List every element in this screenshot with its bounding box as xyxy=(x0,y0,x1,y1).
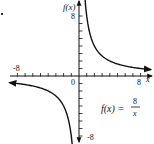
curve-positive-branch xyxy=(83,0,150,70)
origin-label: 0 xyxy=(71,78,75,87)
function-denominator: x xyxy=(132,109,137,118)
curve-negative-branch xyxy=(10,83,75,144)
stray-dot xyxy=(1,13,3,15)
x-tick-label-8: 8 xyxy=(137,78,141,87)
y-tick-label-neg8: -8 xyxy=(87,133,94,142)
function-numerator: 8 xyxy=(133,97,137,106)
y-tick-label-8: 8 xyxy=(71,12,75,21)
hyperbola-chart: f(x) x 0 -8 8 8 -8 f(x) = 8 x xyxy=(0,0,154,144)
y-axis-label: f(x) xyxy=(63,2,76,12)
function-label: f(x) = 8 x xyxy=(101,97,140,118)
curves xyxy=(10,0,151,144)
x-tick-label-neg8: -8 xyxy=(13,64,20,73)
x-axis-label: x xyxy=(145,75,150,84)
function-lhs: f(x) = xyxy=(101,103,124,115)
